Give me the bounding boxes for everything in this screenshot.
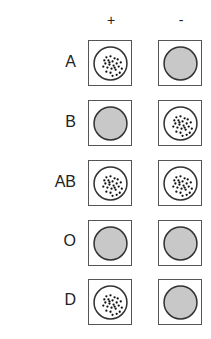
well-b-negative [158, 100, 202, 146]
row-label-o: O [0, 232, 76, 250]
smooth-circle-icon [162, 284, 199, 321]
column-header-negative: - [171, 12, 191, 28]
smooth-circle-icon [162, 45, 199, 82]
well-ab-positive [88, 160, 132, 206]
agglutination-dots-icon [92, 45, 129, 82]
agglutination-dots-icon [162, 165, 199, 202]
smooth-circle-icon [162, 225, 199, 262]
column-header-positive: + [101, 12, 121, 28]
smooth-circle-icon [92, 105, 129, 142]
agglutination-dots-icon [92, 165, 129, 202]
well-b-positive [88, 100, 132, 146]
well-ab-negative [158, 160, 202, 206]
well-d-negative [158, 279, 202, 325]
row-label-b: B [0, 113, 76, 131]
well-o-negative [158, 220, 202, 266]
smooth-circle-icon [92, 225, 129, 262]
well-o-positive [88, 220, 132, 266]
row-label-a: A [0, 53, 76, 71]
well-d-positive [88, 279, 132, 325]
well-a-positive [88, 40, 132, 86]
row-label-ab: AB [0, 173, 76, 191]
agglutination-dots-icon [92, 284, 129, 321]
row-label-d: D [0, 291, 76, 309]
well-a-negative [158, 40, 202, 86]
agglutination-dots-icon [162, 105, 199, 142]
